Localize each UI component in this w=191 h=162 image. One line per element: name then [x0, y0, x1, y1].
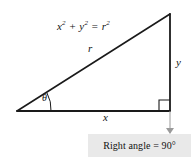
vertical-leg-label: y [176, 57, 181, 68]
horizontal-leg-label: x [103, 112, 108, 123]
angle-theta-label: θ [42, 93, 47, 103]
pythagorean-equation-label: x2 + y2 = r2 [57, 21, 110, 32]
geometry-figure: x2 + y2 = r2 r y x θ Right angle = 90° [0, 0, 191, 162]
right-angle-callout-text: Right angle = 90° [103, 140, 176, 151]
equation-plus: + [66, 20, 80, 32]
right-angle-callout-box: Right angle = 90° [88, 134, 191, 157]
equation-equals: = [88, 20, 102, 32]
equation-exponent-r: 2 [106, 19, 110, 27]
right-angle-marker-icon [159, 100, 170, 111]
angle-arc-icon [47, 93, 51, 111]
hypotenuse-label: r [88, 43, 92, 54]
